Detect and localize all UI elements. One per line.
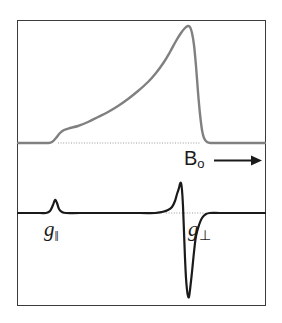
g-perpendicular-label-base: g [188,217,199,241]
field-axis-label-subscript: o [197,156,204,171]
absorption-panel [18,26,265,143]
g-parallel-label-subscript: ‖ [55,228,59,244]
g-parallel-label-base: g [44,217,55,241]
field-axis-label: Bo [184,148,205,170]
field-axis-label-base: B [184,147,197,169]
absorption-curve [18,26,265,143]
g-parallel-label: g‖ [44,219,59,244]
field-direction-arrow-svg [210,150,266,172]
arrow-head-icon [251,156,262,166]
epr-spectrum-figure: Bo g‖ g⊥ [0,0,282,323]
g-perpendicular-label-subscript: ⊥ [199,228,211,243]
g-perpendicular-label: g⊥ [188,219,211,243]
